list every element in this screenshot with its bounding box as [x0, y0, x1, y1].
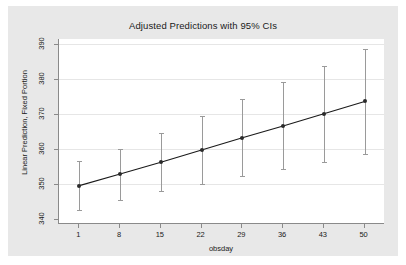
x-tick-label: 8 — [107, 230, 131, 239]
y-tick-label: 350 — [37, 172, 46, 194]
ci-cap — [118, 149, 123, 150]
x-tick-label: 43 — [311, 230, 335, 239]
ci-cap — [200, 116, 205, 117]
y-axis-label: Linear Prediction, Fixed Portion — [20, 33, 29, 213]
ci-cap — [281, 82, 286, 83]
x-tick-mark — [160, 224, 161, 228]
y-tick-label: 340 — [37, 207, 46, 229]
y-tick-label: 380 — [37, 68, 46, 90]
graph-region: Adjusted Predictions with 95% CIs Linear… — [8, 6, 398, 256]
plot-area — [58, 39, 384, 224]
ci-cap — [322, 66, 327, 67]
data-point-marker — [281, 124, 285, 128]
data-point-marker — [200, 148, 204, 152]
ci-cap — [159, 191, 164, 192]
chart-screenshot: Adjusted Predictions with 95% CIs Linear… — [0, 0, 406, 265]
ci-cap — [363, 49, 368, 50]
ci-cap — [240, 176, 245, 177]
ci-cap — [77, 161, 82, 162]
y-tick-label: 370 — [37, 103, 46, 125]
x-tick-mark — [201, 224, 202, 228]
chart-title: Adjusted Predictions with 95% CIs — [8, 20, 398, 31]
y-tick-label: 360 — [37, 137, 46, 159]
x-tick-mark — [364, 224, 365, 228]
data-point-marker — [322, 112, 326, 116]
ci-cap — [363, 154, 368, 155]
x-tick-label: 36 — [270, 230, 294, 239]
ci-cap — [240, 99, 245, 100]
prediction-line — [59, 39, 385, 224]
x-tick-mark — [78, 224, 79, 228]
ci-cap — [322, 162, 327, 163]
x-tick-label: 50 — [352, 230, 376, 239]
x-tick-label: 15 — [148, 230, 172, 239]
x-tick-mark — [323, 224, 324, 228]
x-tick-mark — [282, 224, 283, 228]
x-tick-label: 1 — [66, 230, 90, 239]
x-tick-label: 29 — [229, 230, 253, 239]
y-tick-label: 390 — [37, 33, 46, 55]
ci-cap — [281, 169, 286, 170]
ci-cap — [200, 184, 205, 185]
ci-cap — [118, 200, 123, 201]
x-tick-mark — [241, 224, 242, 228]
x-tick-label: 22 — [189, 230, 213, 239]
ci-cap — [159, 133, 164, 134]
ci-cap — [77, 210, 82, 211]
x-tick-mark — [119, 224, 120, 228]
x-axis-label: obsday — [58, 244, 384, 253]
plot-inner — [59, 39, 384, 223]
